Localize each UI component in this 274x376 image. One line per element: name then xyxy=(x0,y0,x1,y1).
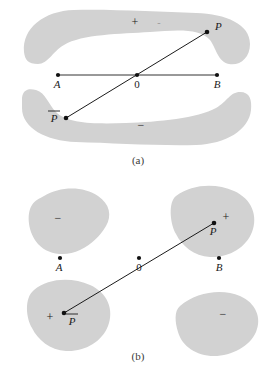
point-a-Pbar[interactable] xyxy=(64,116,69,121)
point-b-O[interactable] xyxy=(137,256,141,260)
point-b-Pbar[interactable] xyxy=(62,311,67,316)
point-label-b-O: 0 xyxy=(136,261,142,273)
point-b-A[interactable] xyxy=(58,256,62,260)
point-label-a-O: 0 xyxy=(134,78,140,90)
diagram-canvas: + - − A 0 B P P xyxy=(0,0,274,376)
caption-panel-a: (a) xyxy=(132,154,145,167)
region-top-left-blob xyxy=(29,189,110,255)
panel-b: − + + − A 0 B P P (b) xyxy=(27,186,258,363)
sign-plus-upper-a: + xyxy=(132,15,139,29)
point-a-B[interactable] xyxy=(215,73,219,77)
sign-minus-lower-a: − xyxy=(138,118,145,132)
region-bottom-right-blob xyxy=(176,292,259,356)
point-label-a-A: A xyxy=(53,78,61,90)
point-label-a-B: B xyxy=(214,78,221,90)
sign-plus-top-right-b: + xyxy=(223,210,230,224)
point-label-a-P: P xyxy=(214,20,222,32)
sign-minus-upper-faint-a: - xyxy=(157,17,160,28)
point-b-B[interactable] xyxy=(217,256,221,260)
sign-minus-top-left-b: − xyxy=(55,211,62,225)
point-label-b-B: B xyxy=(216,261,223,273)
caption-panel-b: (b) xyxy=(132,350,145,363)
figure-root: + - − A 0 B P P xyxy=(0,0,274,376)
sign-plus-bottom-left-b: + xyxy=(47,310,54,324)
point-a-P[interactable] xyxy=(205,30,210,35)
point-a-O[interactable] xyxy=(135,73,139,77)
point-a-A[interactable] xyxy=(56,73,60,77)
panel-a: + - − A 0 B P P xyxy=(22,10,251,167)
point-label-b-P: P xyxy=(209,225,217,237)
point-label-b-A: A xyxy=(55,261,63,273)
point-label-b-Pbar: P xyxy=(68,315,76,327)
point-label-a-Pbar: P xyxy=(50,112,58,124)
sign-minus-bottom-right-b: − xyxy=(220,307,227,321)
